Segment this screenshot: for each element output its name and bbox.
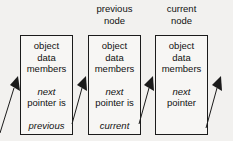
node-box-3: object data members next pointer (155, 35, 208, 135)
node-3-next-pointer-label: next pointer (156, 86, 207, 109)
node-3-pointer-line1: next (156, 86, 207, 98)
node-2-pointer-line2: pointer is (89, 97, 140, 109)
header-previous-node: previous node (88, 3, 141, 26)
node-3-members-line3: members (156, 63, 207, 75)
linked-list-diagram: previous node current node object data m… (0, 0, 233, 141)
node-3-pointer-line2: pointer (156, 97, 207, 109)
node-1-pointer-line1: next (21, 86, 72, 98)
node-1-data-members: object data members (21, 40, 72, 75)
arrow-node-1-to-node-2 (72, 76, 87, 124)
arrow-into-node-1 (0, 76, 20, 133)
node-2-pointer-target: current (89, 120, 140, 132)
node-1-target-value: previous (21, 120, 72, 132)
header-current-node-line2: node (155, 15, 208, 27)
node-box-2: object data members next pointer is curr… (88, 35, 141, 135)
header-current-node-line1: current (155, 3, 208, 15)
header-previous-node-line2: node (88, 15, 141, 27)
node-1-members-line2: data (21, 52, 72, 64)
node-1-members-line1: object (21, 40, 72, 52)
node-1-members-line3: members (21, 63, 72, 75)
node-2-next-pointer-label: next pointer is (89, 86, 140, 109)
arrow-node-2-to-node-3 (139, 76, 154, 124)
node-2-members-line1: object (89, 40, 140, 52)
node-2-members-line3: members (89, 63, 140, 75)
arrow-node-3-to-next (206, 76, 222, 128)
header-current-node: current node (155, 3, 208, 26)
node-2-pointer-line1: next (89, 86, 140, 98)
node-1-next-pointer-label: next pointer is (21, 86, 72, 109)
node-2-data-members: object data members (89, 40, 140, 75)
node-3-members-line2: data (156, 52, 207, 64)
node-1-pointer-target: previous (21, 120, 72, 132)
node-2-members-line2: data (89, 52, 140, 64)
header-previous-node-line1: previous (88, 3, 141, 15)
node-box-1: object data members next pointer is prev… (20, 35, 73, 135)
node-2-target-value: current (89, 120, 140, 132)
node-1-pointer-line2: pointer is (21, 97, 72, 109)
node-3-members-line1: object (156, 40, 207, 52)
node-3-data-members: object data members (156, 40, 207, 75)
